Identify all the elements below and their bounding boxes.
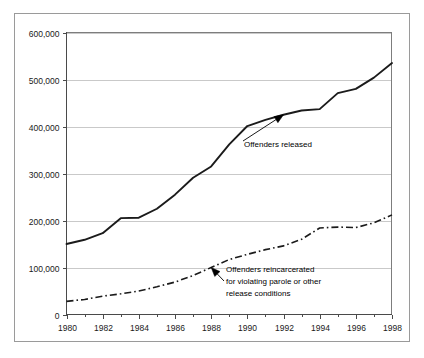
x-tick-label-1996: 1996: [347, 323, 366, 333]
x-tick-label-1992: 1992: [275, 323, 294, 333]
x-tick-label-1994: 1994: [311, 323, 330, 333]
line-chart: 0100,000200,000300,000400,000500,000600,…: [0, 0, 424, 358]
y-tick-label-200000: 200,000: [29, 217, 60, 227]
chart-background: [0, 0, 424, 358]
x-tick-label-1980: 1980: [58, 323, 77, 333]
x-tick-label-1990: 1990: [238, 323, 257, 333]
annotation-label-released: Offenders released: [244, 140, 312, 149]
y-tick-label-300000: 300,000: [29, 170, 60, 180]
y-tick-label-100000: 100,000: [29, 264, 60, 274]
x-tick-label-1988: 1988: [202, 323, 221, 333]
y-tick-label-0: 0: [55, 311, 60, 321]
x-tick-label-1986: 1986: [166, 323, 185, 333]
x-tick-label-1998: 1998: [383, 323, 402, 333]
annotation-label-reincarcerated-line1: Offenders reincarcerated: [226, 265, 314, 274]
chart-figure: 0100,000200,000300,000400,000500,000600,…: [0, 0, 424, 358]
x-tick-label-1984: 1984: [130, 323, 149, 333]
x-tick-label-1982: 1982: [94, 323, 113, 333]
y-tick-label-600000: 600,000: [29, 29, 60, 39]
annotation-label-reincarcerated-line3: release conditions: [226, 289, 290, 298]
y-tick-label-400000: 400,000: [29, 123, 60, 133]
y-tick-label-500000: 500,000: [29, 76, 60, 86]
annotation-label-reincarcerated-line2: for violating parole or other: [226, 277, 322, 286]
